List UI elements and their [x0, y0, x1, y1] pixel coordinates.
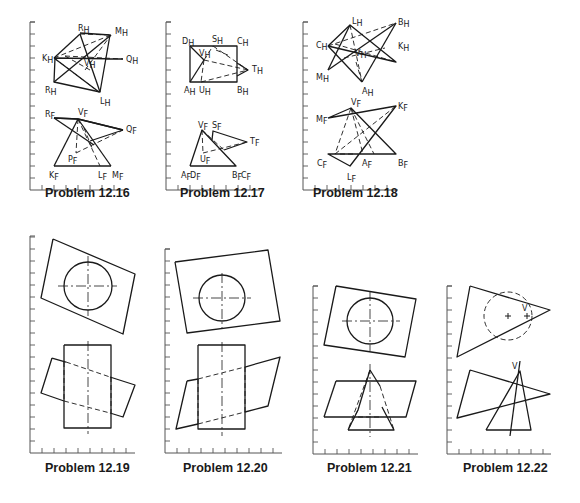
vertex-label: CH — [316, 41, 328, 52]
vertex-label: CF — [241, 171, 252, 182]
vertex-label: LF — [347, 173, 356, 184]
vertex-label: TH — [251, 65, 263, 76]
visible-edge — [358, 370, 370, 410]
vertex-label: KF — [49, 171, 59, 182]
vertex-label: RF — [45, 110, 56, 121]
visible-edge — [90, 130, 123, 141]
vertex-label: LH — [100, 97, 110, 108]
vertex-label: V — [512, 362, 518, 371]
visible-edge — [457, 370, 550, 418]
visible-edge — [64, 345, 111, 428]
caption-problem-12-17: Problem 12.17 — [180, 186, 265, 200]
vertex-label: AH — [362, 87, 374, 98]
figure-problem-12-17: DHSHCHVHTHAHUHBHVFSFTFUFAFDFBFCF — [181, 35, 263, 182]
hidden-edge — [76, 119, 78, 153]
ruler-axis — [165, 249, 282, 453]
vertex-label: BH — [237, 86, 249, 97]
hidden-edge — [64, 401, 110, 413]
vertex-label: AH — [184, 86, 196, 97]
visible-edge — [41, 239, 135, 334]
figure-problem-12-16: RHMHKHQHVHRHLHRFVFQFPFKFLFMF — [42, 24, 138, 182]
vertex-label: DF — [190, 171, 201, 182]
visible-edge — [176, 381, 198, 429]
visible-edge — [187, 379, 198, 381]
vertex-label: UF — [200, 155, 211, 166]
visible-edge — [457, 286, 550, 357]
caption-problem-12-16: Problem 12.16 — [45, 186, 130, 200]
vertex-label: AF — [362, 159, 372, 170]
vertex-label: LF — [98, 171, 107, 182]
vertex-label: MH — [316, 73, 329, 84]
vertex-label: UH — [199, 86, 211, 97]
rulers-layer — [30, 22, 551, 454]
visible-edge — [362, 23, 396, 82]
vertex-label: MH — [115, 27, 128, 38]
visible-edge — [212, 131, 247, 150]
vertex-label: VH — [199, 49, 211, 60]
figure-problem-12-18: LHBHCHVHKHMHAHVFKFMFCFAFBFLF — [316, 17, 410, 184]
hidden-edge — [78, 119, 100, 166]
figure-problem-12-20 — [175, 250, 280, 436]
visible-edge — [370, 370, 380, 386]
visible-edge — [328, 23, 396, 70]
problem-sheet-canvas: RHMHKHQHVHRHLHRFVFQFPFKFLFMF DHSHCHVHTHA… — [0, 0, 580, 503]
caption-problem-12-20: Problem 12.20 — [183, 461, 268, 475]
figure-problem-12-21 — [324, 286, 416, 437]
visible-edge — [110, 377, 135, 417]
vertex-label: DH — [182, 37, 194, 48]
hidden-edge — [351, 108, 374, 154]
hidden-edge — [198, 367, 245, 379]
visible-edge — [190, 46, 237, 82]
vertex-label: VF — [198, 121, 208, 132]
visible-edge — [245, 357, 280, 412]
vertex-label: RH — [45, 86, 57, 97]
vertex-label: V — [522, 304, 528, 313]
vertex-label: QF — [126, 125, 137, 136]
vertex-label: MF — [112, 171, 124, 182]
hidden-edge — [202, 130, 203, 153]
caption-problem-12-21: Problem 12.21 — [327, 461, 412, 475]
ruler-axis — [447, 286, 551, 454]
caption-problem-12-18: Problem 12.18 — [313, 186, 398, 200]
vertex-label: QH — [126, 55, 138, 66]
hidden-edge — [54, 35, 111, 58]
vertex-label: PF — [68, 155, 78, 166]
vertex-label: CH — [237, 37, 249, 48]
hidden-edge — [201, 70, 248, 82]
vertex-label: SF — [212, 121, 222, 132]
ruler-axis — [313, 286, 418, 454]
vertex-label: KH — [42, 54, 53, 65]
visible-edge — [328, 106, 396, 166]
figure-problem-12-22: VV — [457, 286, 550, 436]
vertex-label: CF — [317, 159, 328, 170]
vertex-label: KF — [398, 102, 408, 113]
caption-problem-12-19: Problem 12.19 — [45, 461, 130, 475]
figure-problem-12-19 — [41, 239, 135, 434]
visible-edge — [510, 361, 520, 436]
vertex-label: MF — [316, 115, 328, 126]
caption-problem-12-22: Problem 12.22 — [463, 461, 548, 475]
visible-edge — [54, 34, 80, 58]
vertex-label: LH — [352, 17, 362, 28]
visible-edge — [198, 345, 245, 429]
visible-edge — [54, 118, 123, 130]
visible-edge — [54, 118, 78, 119]
hidden-edge — [198, 412, 245, 424]
visible-edge — [324, 381, 336, 417]
vertex-label: BF — [398, 159, 409, 170]
vertex-label: BH — [398, 18, 410, 29]
vertex-label: VF — [78, 108, 88, 119]
vertex-label: RH — [78, 24, 90, 35]
hidden-edge — [348, 370, 370, 430]
vertex-label: VF — [351, 98, 361, 109]
vertex-label: SH — [212, 35, 223, 46]
vertex-label: TF — [249, 137, 260, 148]
visible-edge — [41, 358, 64, 401]
vertex-label: KH — [398, 42, 409, 53]
